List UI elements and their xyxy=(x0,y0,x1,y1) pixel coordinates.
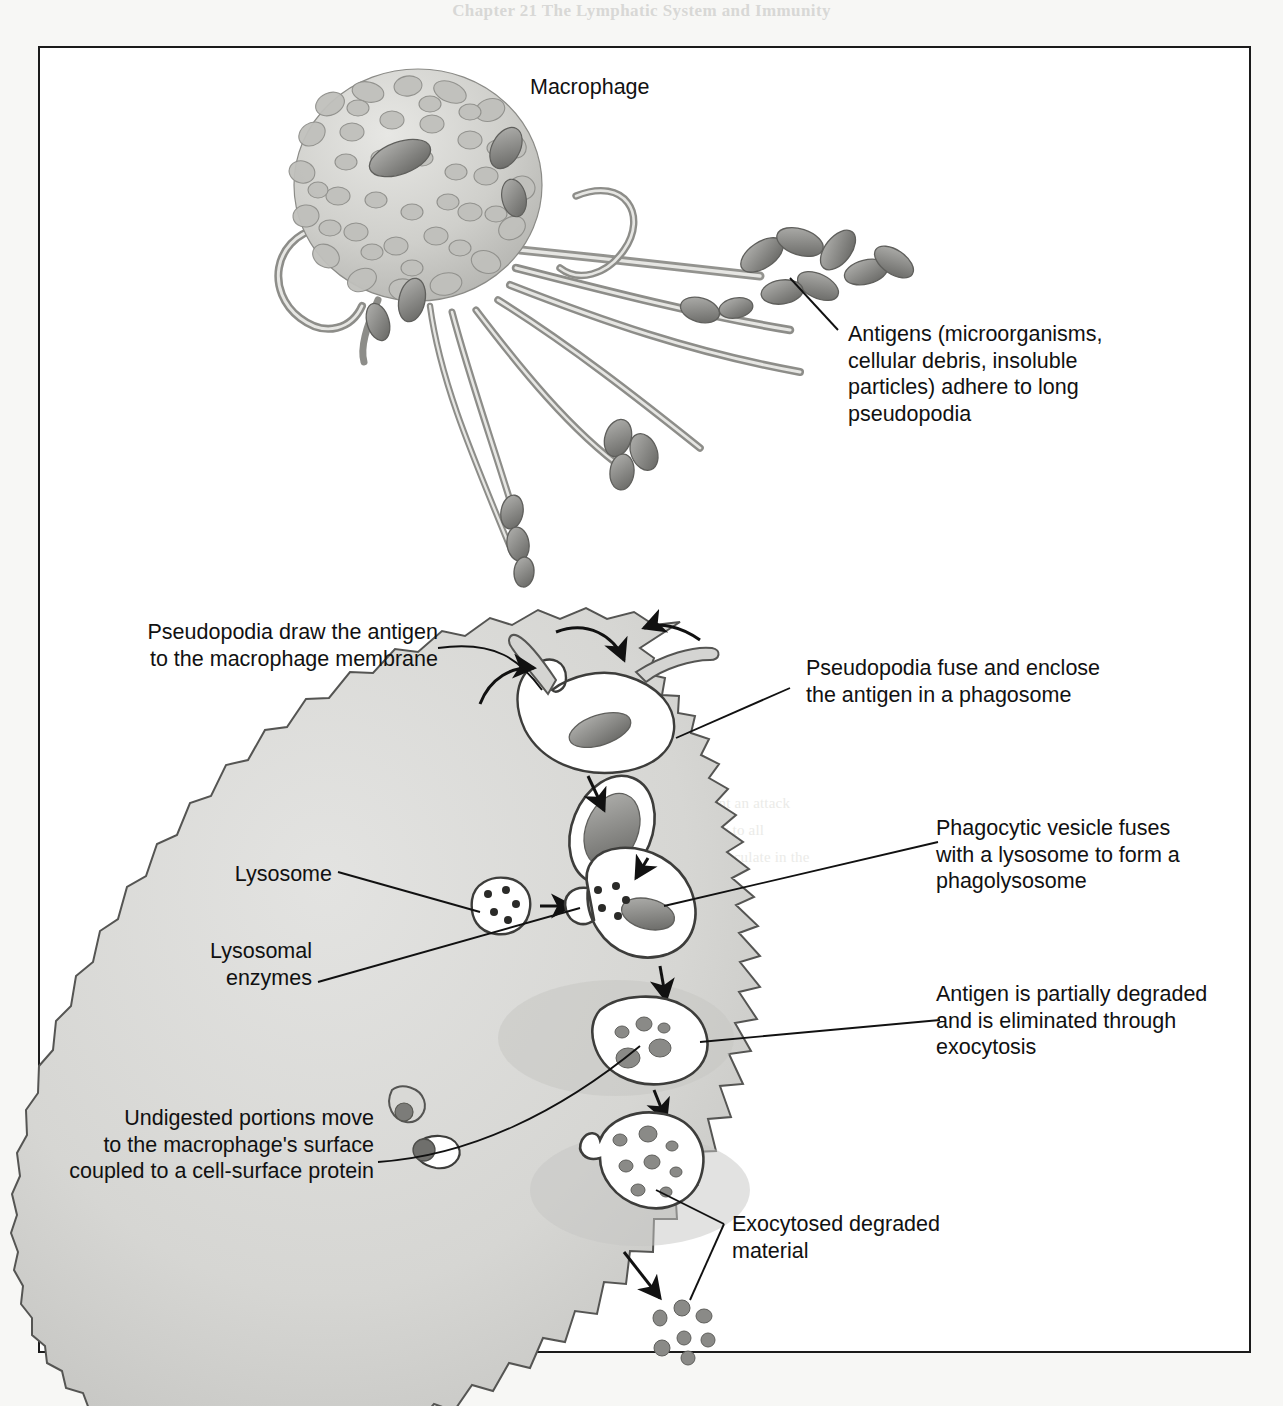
label-exocytosed-material: Exocytosed degraded material xyxy=(732,1211,940,1264)
label-undigested-portions: Undigested portions move to the macropha… xyxy=(58,1105,374,1185)
antigen-cluster-lower-pseudopodium xyxy=(600,416,663,491)
figure-page: Chapter 21 The Lymphatic System and Immu… xyxy=(0,0,1283,1406)
label-pseudopodia-fuse: Pseudopodia fuse and enclose the antigen… xyxy=(806,655,1100,708)
label-macrophage: Macrophage xyxy=(530,74,650,101)
leader-pseudopodia-fuse xyxy=(676,688,790,738)
antigen-cluster-upper-right xyxy=(735,222,919,307)
exocytosed-degraded-material xyxy=(653,1300,715,1365)
label-lysosome: Lysosome xyxy=(60,861,332,888)
label-antigens-adhere: Antigens (microorganisms, cellular debri… xyxy=(848,321,1103,427)
macrophage-cell-body xyxy=(286,69,542,303)
lower-panel-phagocytosis xyxy=(11,608,940,1406)
label-pseudopodia-draw: Pseudopodia draw the antigen to the macr… xyxy=(60,619,438,672)
label-phagocytic-vesicle: Phagocytic vesicle fuses with a lysosome… xyxy=(936,815,1180,895)
upper-panel-macrophage xyxy=(278,69,919,588)
label-antigen-degraded: Antigen is partially degraded and is eli… xyxy=(936,981,1207,1061)
step-lysosome xyxy=(472,878,531,935)
arrow-exocytosis-release xyxy=(624,1252,660,1298)
label-lysosomal-enzymes: Lysosomal enzymes xyxy=(60,938,312,991)
antigen-cluster-bottom-strand xyxy=(498,493,535,587)
